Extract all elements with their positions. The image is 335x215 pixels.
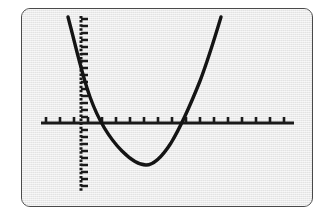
parabola-curve	[68, 17, 221, 165]
x-axis	[41, 117, 294, 123]
y-axis	[81, 16, 88, 191]
calculator-graph-screen[interactable]	[21, 8, 313, 207]
screenshot-root	[0, 0, 335, 215]
graph-plot[interactable]	[22, 9, 313, 207]
quadratic-curve-path	[68, 17, 221, 165]
